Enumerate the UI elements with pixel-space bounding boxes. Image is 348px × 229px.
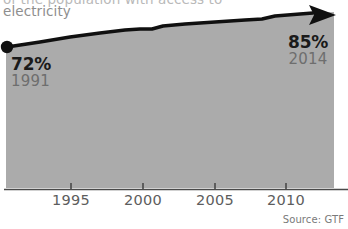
chart-figure: of the population with access to electri… (0, 0, 348, 229)
start-value-callout: 72% 1991 (11, 55, 51, 90)
x-axis-tick-label: 2000 (124, 192, 162, 209)
x-axis-tick-label: 2005 (196, 192, 234, 209)
end-value-callout: 85% 2014 (288, 33, 328, 68)
start-point-marker (1, 41, 13, 53)
end-value-year: 2014 (288, 51, 328, 68)
start-value-year: 1991 (11, 73, 51, 90)
x-axis-tick-label: 2010 (267, 192, 305, 209)
end-value-percent: 85% (288, 33, 328, 51)
start-value-percent: 72% (11, 55, 51, 73)
x-axis-tick-label: 1995 (52, 192, 90, 209)
source-credit: Source: GTF (283, 214, 344, 226)
